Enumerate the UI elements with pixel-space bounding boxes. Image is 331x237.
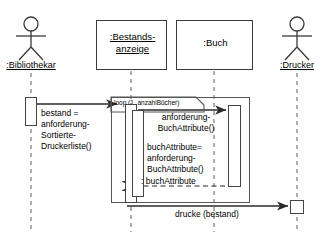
participant-box-buch[interactable]: :Buch — [176, 20, 253, 70]
participant-label-bestandsanzeige-line1: :Bestands- — [97, 32, 168, 43]
loop-fragment-label: loop (1, anzahlBücher) — [114, 99, 179, 106]
participant-label-bibliothekar: :Bibliothekar — [0, 61, 62, 71]
uml-sequence-diagram: :Bestands- anzeige :Buch :Bibliothekar :… — [0, 0, 331, 237]
message-label-m3: buchAttribute=anforderung-BuchAttribute(… — [147, 142, 204, 175]
message-label-m2: anforderung-BuchAttribute() — [145, 112, 227, 134]
participant-label-drucker: :Drucker — [266, 61, 328, 71]
activation-bar-drucker — [290, 200, 304, 214]
message-label-m4-return: : buchAttribute — [141, 176, 196, 187]
participant-label-buch: :Buch — [177, 38, 254, 49]
activation-bar-bibliothekar — [25, 97, 37, 126]
participant-box-bestandsanzeige[interactable]: :Bestands- anzeige — [96, 20, 167, 70]
message-label-m1: bestand =anforderung-Sortierte-Druckerli… — [41, 108, 92, 152]
stick-figure-actor-icon — [282, 17, 312, 60]
activation-bar-buch — [228, 105, 241, 187]
message-label-m5: drucke (bestand) — [137, 209, 277, 220]
stick-figure-actor-icon — [16, 17, 46, 60]
participant-label-bestandsanzeige-line2: anzeige — [97, 44, 168, 55]
